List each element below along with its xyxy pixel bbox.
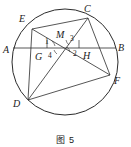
chord-CF [88, 18, 110, 75]
arc-angle-4 [54, 50, 57, 54]
figure-caption: 图 5 [0, 133, 131, 146]
vertex-label-H: H [83, 51, 90, 61]
geometry-figure: A B C D E F G H M 1 2 3 4 图 5 [0, 0, 131, 147]
angle-label-3: 3 [70, 35, 74, 43]
arc-angle-3 [66, 40, 69, 45]
chord-ED [28, 29, 32, 100]
angle-label-4: 4 [48, 52, 52, 60]
vertex-label-M: M [56, 30, 64, 40]
angle-label-2: 2 [73, 50, 77, 58]
vertex-label-A: A [3, 45, 9, 55]
vertex-label-D: D [13, 99, 20, 109]
vertex-label-C: C [84, 4, 91, 14]
chord-EC [32, 18, 88, 29]
vertex-label-E: E [19, 14, 25, 24]
vertex-label-F: F [114, 76, 120, 86]
vertex-label-B: B [118, 43, 124, 53]
vertex-label-G: G [35, 52, 42, 62]
chord-DF [28, 75, 110, 100]
angle-label-1: 1 [45, 38, 49, 46]
